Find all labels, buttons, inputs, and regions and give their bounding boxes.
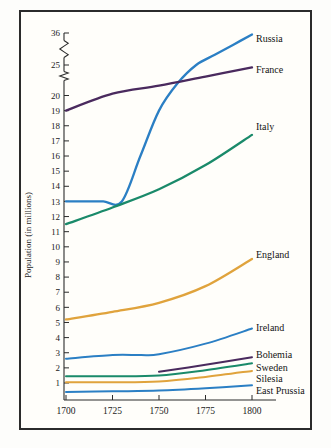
y-tick-label: 2 bbox=[56, 363, 61, 373]
y-tick-label: 14 bbox=[51, 181, 61, 191]
series-label-group: RussiaFranceItalyEnglandIrelandBohemiaSw… bbox=[256, 33, 305, 396]
x-tick-label: 1725 bbox=[103, 406, 122, 416]
x-tick-label: 1800 bbox=[243, 406, 262, 416]
series-line-russia bbox=[66, 34, 252, 204]
y-tick-label: 20 bbox=[51, 91, 61, 101]
x-tick-label: 1750 bbox=[150, 406, 169, 416]
y-axis-title: Population (in millions) bbox=[23, 192, 33, 278]
y-tick-label: 9 bbox=[56, 257, 61, 267]
line-chart-svg: 12345678910111213141516171819202536 1700… bbox=[0, 0, 331, 448]
series-line-east-prussia bbox=[66, 385, 252, 392]
series-label-sweden: Sweden bbox=[256, 362, 288, 373]
y-tick-label: 36 bbox=[51, 28, 61, 38]
series-line-england bbox=[66, 259, 252, 320]
y-tick-label: 5 bbox=[56, 318, 61, 328]
series-label-england: England bbox=[256, 249, 289, 260]
y-tick-label: 25 bbox=[51, 60, 61, 70]
series-line-ireland bbox=[66, 329, 252, 359]
series-label-bohemia: Bohemia bbox=[256, 349, 293, 360]
y-tick-label: 17 bbox=[51, 136, 61, 146]
y-tick-label: 4 bbox=[56, 333, 61, 343]
series-line-france bbox=[66, 67, 252, 110]
y-axis-title-group: Population (in millions) bbox=[23, 192, 33, 278]
y-tick-label: 12 bbox=[51, 212, 60, 222]
series-label-france: France bbox=[256, 64, 284, 75]
y-tick-label: 16 bbox=[51, 151, 61, 161]
y-tick-label: 18 bbox=[51, 121, 61, 131]
y-tick-label: 8 bbox=[56, 272, 61, 282]
series-label-east-prussia: East Prussia bbox=[256, 385, 305, 396]
series-label-silesia: Silesia bbox=[256, 373, 283, 384]
y-tick-label: 1 bbox=[56, 378, 61, 388]
y-tick-label: 3 bbox=[56, 348, 61, 358]
y-tick-label: 11 bbox=[51, 227, 60, 237]
x-tick-label: 1700 bbox=[57, 406, 76, 416]
y-axis: 12345678910111213141516171819202536 bbox=[51, 28, 69, 400]
series-label-ireland: Ireland bbox=[256, 322, 284, 333]
x-tick-label: 1775 bbox=[196, 406, 215, 416]
x-axis: 17001725175017751800 bbox=[57, 395, 277, 416]
y-tick-label: 19 bbox=[51, 106, 61, 116]
series-line-italy bbox=[66, 135, 252, 224]
y-tick-label: 7 bbox=[56, 287, 61, 297]
y-tick-label: 6 bbox=[56, 303, 61, 313]
series-label-russia: Russia bbox=[256, 33, 283, 44]
data-series-group bbox=[66, 34, 252, 392]
y-tick-label: 10 bbox=[51, 242, 61, 252]
y-tick-label: 15 bbox=[51, 166, 61, 176]
y-tick-label: 13 bbox=[51, 197, 61, 207]
series-label-italy: Italy bbox=[256, 121, 274, 132]
plot-area: 12345678910111213141516171819202536 1700… bbox=[0, 0, 331, 448]
chart-figure: 12345678910111213141516171819202536 1700… bbox=[0, 0, 331, 448]
